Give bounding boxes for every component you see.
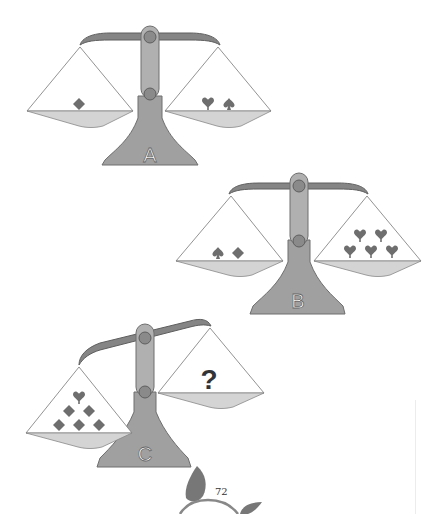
vine-stem	[180, 500, 238, 514]
scale-c-right-pan: ?	[158, 328, 264, 409]
scale-b-right-pan	[314, 196, 421, 277]
scale-a-right-pan	[165, 47, 271, 128]
leaf-icon	[186, 466, 206, 502]
scale-b-label: B	[291, 290, 304, 312]
scale-c-left-pan	[26, 367, 132, 449]
scale-a-pivot-bottom	[144, 88, 156, 100]
puzzle-canvas: A B	[0, 0, 443, 514]
scale-c: ? C	[26, 319, 264, 467]
scale-a-pivot-top	[144, 31, 156, 43]
scale-c-pivot-bottom	[139, 386, 151, 398]
page-number: 72	[215, 486, 228, 497]
leaf-icon	[240, 502, 262, 514]
scale-c-label: C	[138, 443, 152, 465]
scale-b-pivot-top	[293, 180, 305, 192]
scale-b: B	[176, 173, 421, 314]
scale-a: A	[27, 26, 271, 166]
scale-b-pivot-bottom	[293, 235, 305, 247]
scale-b-left-pan	[176, 196, 283, 277]
page-edge	[415, 400, 416, 514]
scale-a-left-pan	[27, 47, 133, 128]
scale-a-label: A	[143, 144, 157, 166]
unknown-weight-question-mark: ?	[200, 364, 217, 395]
scale-c-pivot-top	[139, 332, 151, 344]
